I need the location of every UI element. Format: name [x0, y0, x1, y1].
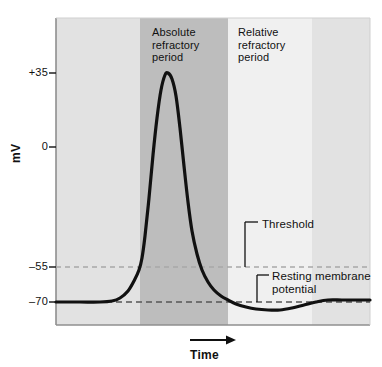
threshold-label: Threshold	[262, 218, 314, 231]
time-arrow-head	[226, 336, 236, 345]
y-axis-title: mV	[9, 144, 23, 163]
band-label-relative-refractory: Relative refractory period	[238, 26, 285, 64]
y-tick-label-35: +35	[8, 66, 48, 78]
band-pre-stimulus	[56, 18, 140, 325]
band-label-absolute-refractory: Absolute refractory period	[152, 26, 199, 64]
y-tick-label-neg70: –70	[8, 295, 48, 307]
resting-membrane-potential-label: Resting membrane potential	[272, 270, 371, 296]
x-axis-title: Time	[190, 348, 219, 362]
y-tick-label-neg55: –55	[8, 260, 48, 272]
action-potential-figure: +35 0 –55 –70 mV Absolute refractory per…	[0, 0, 382, 367]
